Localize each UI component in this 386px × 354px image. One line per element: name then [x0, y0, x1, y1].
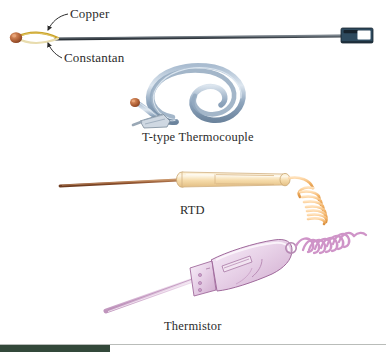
thermistor-shaft-outline: [108, 278, 194, 309]
rtd-caption: RTD: [180, 203, 205, 218]
thermistor-shaft-highlight: [108, 281, 194, 312]
copper-leader-line: [48, 14, 68, 30]
thermistor-contact-3: [198, 288, 201, 291]
thermistor-coiled-cord: [296, 233, 366, 253]
connector-shadow: [341, 41, 373, 43]
thermocouple-junction-bead: [10, 32, 22, 43]
rtd-shaft: [60, 180, 178, 186]
cable-tip-bead: [130, 98, 140, 107]
plug-pin: [133, 122, 141, 125]
rtd-coiled-cord: [289, 177, 327, 224]
thermocouple-connector: [341, 28, 373, 43]
constantan-wire: [17, 38, 58, 43]
constantan-label: Constantan: [64, 50, 125, 66]
constantan-leader-line: [48, 43, 62, 58]
plug-body: [140, 114, 170, 128]
connector-window: [358, 31, 371, 40]
copper-wire: [17, 33, 58, 38]
rtd-tail-cap: [280, 173, 290, 185]
thermistor-contact-1: [198, 273, 201, 276]
bead-highlight: [12, 34, 16, 37]
footer-accent-bar: [0, 345, 110, 352]
thermistor-probe: [106, 233, 366, 312]
thermistor-contact-2: [198, 281, 201, 284]
thermocouple-caption: T-type Thermocouple: [142, 130, 254, 145]
thermocouple-coiled-cable: [137, 66, 243, 123]
sensor-figure: [0, 0, 386, 354]
cable-tip-bead-highlight: [132, 100, 135, 103]
thermistor-shaft: [106, 279, 196, 311]
thermistor-front-face: [190, 261, 216, 296]
copper-label: Copper: [70, 6, 109, 22]
thermistor-caption: Thermistor: [164, 319, 222, 334]
